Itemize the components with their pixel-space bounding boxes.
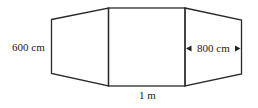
left-height-label: 600 cm	[12, 41, 45, 53]
arrow-left-icon	[186, 46, 192, 52]
arrow-right-icon	[235, 46, 241, 52]
left-trapezoid	[52, 8, 109, 86]
bottom-width-label: 1 m	[139, 89, 156, 101]
center-square	[109, 8, 186, 86]
prism-net-diagram: 600 cm 800 cm 1 m	[0, 0, 258, 108]
right-width-label: 800 cm	[197, 42, 230, 54]
